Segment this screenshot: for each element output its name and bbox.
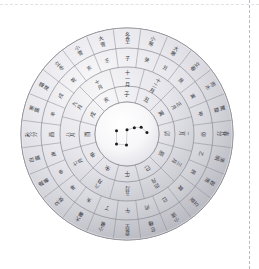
figure-canvas: 冬至小寒大寒立春雨水驚蟄春分清明穀雨立夏小滿芒種夏至小暑大暑立秋處暑白露秋分寒露…: [0, 0, 259, 269]
star-6: [140, 126, 143, 129]
star-7: [145, 131, 148, 134]
solar-terms-ring-label: 至: [125, 38, 130, 44]
months-ring-label: 月: [178, 132, 185, 137]
star-5: [133, 126, 136, 129]
twelve-branches-ring-label: 卯: [200, 132, 207, 137]
months-ring-label: 月: [125, 185, 130, 192]
cosmological-wheel: 冬至小寒大寒立春雨水驚蟄春分清明穀雨立夏小滿芒種夏至小暑大暑立秋處暑白露秋分寒露…: [0, 0, 259, 269]
solar-terms-ring-label: 至: [125, 224, 130, 230]
star-4: [126, 128, 129, 131]
zodiac-ring-label: 酉: [84, 131, 91, 137]
solar-terms-ring-label: 分: [216, 132, 224, 137]
twelve-branches-ring-label: 子: [125, 55, 130, 61]
zodiac-ring-label: 午: [124, 170, 130, 178]
solar-terms-ring-label: 分: [30, 132, 38, 137]
zodiac-ring-label: 卯: [163, 131, 171, 137]
zodiac-ring-label: 子: [124, 91, 130, 97]
months-ring-label: 月: [69, 132, 76, 137]
twelve-branches-ring-label: 酉: [48, 132, 55, 137]
months-ring-label: 月: [125, 81, 130, 88]
twelve-branches-ring-label: 午: [125, 207, 130, 214]
star-2: [115, 142, 118, 145]
star-3: [125, 144, 128, 147]
star-1: [115, 129, 118, 132]
